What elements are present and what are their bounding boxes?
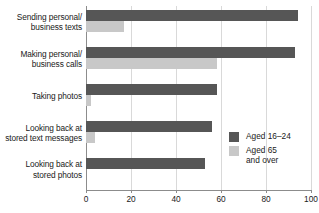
x-tick-label: 0: [84, 194, 89, 204]
x-tick-label: 60: [216, 194, 225, 204]
bar-chart: Sending personal/business textsMaking pe…: [0, 0, 319, 213]
category-label-line: stored text messages: [0, 133, 82, 143]
value-axis-labels: 020406080100: [86, 192, 311, 208]
category-label: Looking back atstored text messages: [0, 123, 82, 143]
bar: [86, 95, 91, 106]
x-tick-label: 20: [126, 194, 135, 204]
category-label-line: Making personal/: [0, 49, 82, 59]
legend-item[interactable]: Aged 65 and over: [229, 145, 317, 165]
legend-label: Aged 65 and over: [246, 145, 278, 165]
x-tick-label: 100: [304, 194, 318, 204]
bar: [86, 58, 217, 69]
bar-group: [86, 47, 311, 69]
category-label: Looking back atstored photos: [0, 159, 82, 179]
category-label-line: Taking photos: [0, 91, 82, 101]
category-label-line: stored photos: [0, 170, 82, 180]
legend-swatch-icon: [229, 132, 239, 142]
bar: [86, 21, 124, 32]
category-label-line: Looking back at: [0, 159, 82, 169]
x-tick-label: 40: [171, 194, 180, 204]
category-label: Taking photos: [0, 91, 82, 101]
category-label: Sending personal/business texts: [0, 12, 82, 32]
category-label-line: Sending personal/: [0, 12, 82, 22]
x-tick-label: 80: [261, 194, 270, 204]
bar: [86, 47, 295, 58]
category-label-line: business texts: [0, 22, 82, 32]
bar: [86, 158, 205, 169]
category-label-line: Looking back at: [0, 123, 82, 133]
legend-label: Aged 16–24: [246, 131, 291, 141]
legend-item[interactable]: Aged 16–24: [229, 131, 317, 142]
category-label: Making personal/business calls: [0, 49, 82, 69]
bar-group: [86, 10, 311, 32]
tickmark-100: [311, 190, 312, 193]
bar: [86, 121, 212, 132]
bar: [86, 84, 217, 95]
category-axis-labels: Sending personal/business textsMaking pe…: [0, 6, 82, 190]
bar: [86, 10, 298, 21]
bar-group: [86, 84, 311, 106]
category-label-line: business calls: [0, 59, 82, 69]
legend-swatch-icon: [229, 146, 239, 156]
chart-legend: Aged 16–24Aged 65 and over: [229, 131, 317, 168]
bar: [86, 132, 95, 143]
